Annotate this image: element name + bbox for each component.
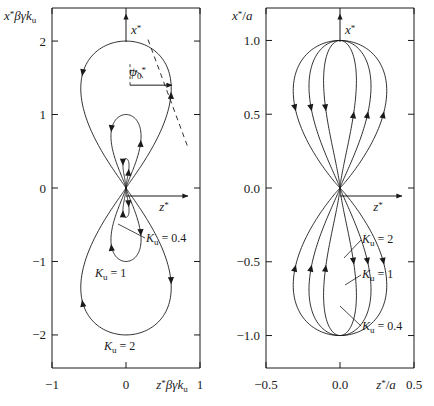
trajectory-direction-arrow [109, 125, 115, 132]
y-tick-label: 1 [40, 107, 47, 122]
curve-label-ku-2: Ku = 2 [361, 232, 393, 248]
trajectory-direction-arrow [291, 265, 297, 273]
trajectory-direction-arrow [291, 104, 297, 112]
psi0-angle-label: ψ0* [129, 64, 147, 81]
trajectory-direction-arrow [168, 277, 174, 284]
trajectory-direction-arrow [125, 169, 131, 176]
y-tick-label: −1 [32, 254, 46, 269]
x-tick-label: 1 [197, 377, 204, 392]
z-axis-arrow-label: z* [158, 199, 169, 214]
curve-label-ku-04: Ku = 0.4 [361, 319, 402, 335]
trajectory-direction-arrow [120, 159, 126, 166]
trajectory-direction-arrow [137, 140, 143, 147]
trajectory-direction-arrow [168, 92, 174, 99]
trajectory-direction-arrow [125, 200, 131, 207]
x-axis-arrow-label: x* [130, 22, 142, 37]
trajectory-curve [111, 115, 141, 188]
trajectory-direction-arrow [380, 257, 386, 265]
trajectory-direction-arrow [364, 257, 370, 264]
trajectory-curve [309, 40, 371, 188]
x-tick-label: −1 [45, 377, 59, 392]
trajectory-curve [324, 40, 357, 188]
x-axis-title: z*βγku [155, 377, 188, 394]
y-tick-label: 0 [40, 181, 47, 196]
trajectory-direction-arrow [350, 257, 356, 264]
trajectory-direction-arrow [322, 104, 328, 111]
y-tick-label: −2 [32, 327, 46, 342]
y-tick-label: −0.5 [236, 254, 260, 269]
trajectory-curve [309, 188, 371, 336]
x-tick-label: 0.5 [406, 377, 422, 392]
trajectory-figure: 210−1−2−101x*z*ψ0*Ku = 0.4Ku = 1Ku = 2x*… [0, 0, 434, 406]
trajectory-direction-arrow [137, 229, 143, 236]
y-axis-title: x*βγku [3, 8, 37, 25]
x-axis-arrow-label: x* [344, 22, 356, 37]
y-tick-label: 0.5 [244, 107, 260, 122]
z-axis-arrow-label: z* [372, 199, 383, 214]
trajectory-curve [293, 40, 387, 188]
x-tick-label: 0.0 [332, 377, 348, 392]
y-tick-label: 1.0 [244, 33, 260, 48]
trajectory-direction-arrow [380, 111, 386, 119]
trajectory-direction-arrow [109, 244, 115, 251]
y-axis-title: x*/a [231, 8, 253, 23]
x-axis-title: z*/a [375, 377, 396, 392]
curve-label-ku-1: Ku = 1 [361, 267, 393, 283]
y-tick-label: 0.0 [244, 181, 260, 196]
leader-line [345, 275, 361, 285]
trajectory-direction-arrow [307, 265, 313, 272]
x-tick-label: −0.5 [254, 377, 278, 392]
trajectory-direction-arrow [307, 104, 313, 111]
trajectory-direction-arrow [364, 111, 370, 118]
trajectory-curve [324, 188, 357, 336]
x-tick-label: 0 [123, 377, 130, 392]
leader-line [340, 306, 361, 326]
trajectory-direction-arrow [322, 265, 328, 272]
trajectory-direction-arrow [120, 210, 126, 217]
trajectory-direction-arrow [80, 300, 86, 307]
trajectory-direction-arrow [350, 111, 356, 118]
curve-label-ku-04: Ku = 0.4 [145, 231, 186, 247]
y-tick-label: −1.0 [236, 328, 260, 343]
tangent-dashed-line [148, 40, 188, 148]
y-tick-label: 2 [40, 34, 47, 49]
right-panel: 1.00.50.0−0.5−1.0−0.50.00.5x*z*Ku = 2Ku … [231, 8, 422, 392]
curve-label-ku-1: Ku = 1 [94, 266, 126, 282]
trajectory-curve [111, 188, 141, 261]
curve-label-ku-2: Ku = 2 [103, 339, 135, 355]
left-panel: 210−1−2−101x*z*ψ0*Ku = 0.4Ku = 1Ku = 2x*… [3, 8, 203, 394]
trajectory-direction-arrow [80, 69, 86, 76]
